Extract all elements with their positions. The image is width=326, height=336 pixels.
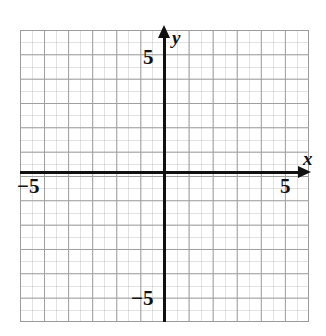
- y-axis-tick-label-negative: −5: [131, 288, 153, 309]
- y-axis-arrow-icon: [158, 25, 170, 38]
- y-axis-line: [163, 34, 166, 322]
- y-axis-tick-label-positive: 5: [143, 47, 154, 68]
- x-axis-label: x: [303, 149, 313, 168]
- x-axis-tick-label-negative: −5: [17, 176, 39, 197]
- x-axis-tick-label-positive: 5: [280, 176, 291, 197]
- coordinate-plane: x y 5 −5 5 −5: [0, 0, 326, 336]
- x-axis-line: [20, 171, 302, 174]
- y-axis-label: y: [172, 28, 180, 47]
